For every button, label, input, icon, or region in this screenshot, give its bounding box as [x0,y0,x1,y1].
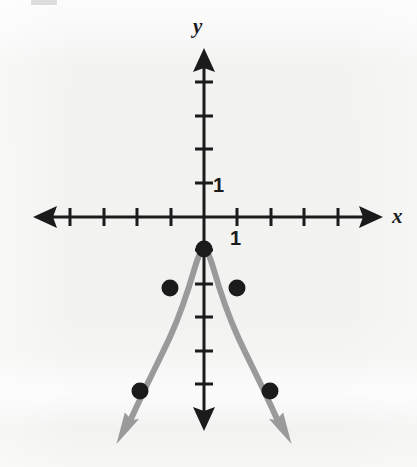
plotted-point-left-inner [162,280,179,297]
curve-right-arrow-icon [269,413,292,445]
x-axis-group [33,206,383,228]
curve-left-arrow-icon [117,413,140,445]
x-axis-unit-label: 1 [230,228,241,248]
plotted-point-right-outer [262,383,279,400]
plotted-point-left-outer [132,383,149,400]
plotted-point-right-inner [229,280,246,297]
plotted-point-vertex [196,241,213,258]
coordinate-plane [0,0,417,467]
x-axis-label: x [392,206,403,227]
y-axis-unit-label: 1 [213,175,224,195]
y-axis-label: y [193,16,202,37]
graph-figure: y x 1 1 [0,0,417,467]
y-axis-group [193,48,215,431]
